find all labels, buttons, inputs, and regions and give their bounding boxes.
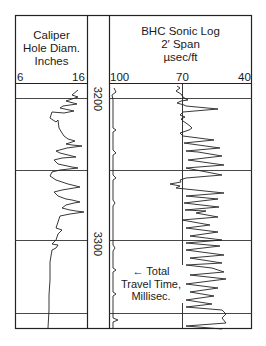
sonic-title-line-1: BHC Sonic Log: [110, 25, 251, 38]
sonic-scale-70: 70: [176, 71, 189, 83]
caliper-scale-max: 16: [72, 71, 85, 83]
sonic-title-line-3: µsec/ft: [110, 51, 251, 64]
sonic-track-title: BHC Sonic Log 2′ Span µsec/ft: [110, 25, 251, 64]
annotation-line-1: ← Total: [116, 265, 186, 278]
caliper-track-title: Caliper Hole Diam. Inches: [16, 29, 87, 68]
annotation-line-3: Millisec.: [116, 290, 186, 303]
caliper-title-line-1: Caliper: [16, 29, 87, 42]
annotation-line-2: Travel Time,: [116, 278, 186, 291]
sonic-scale-100: 100: [110, 71, 129, 83]
caliper-scale-min: 6: [17, 71, 23, 83]
depth-label-3300: 3300: [92, 230, 104, 258]
travel-time-annotation: ← Total Travel Time, Millisec.: [116, 265, 186, 303]
caliper-title-line-2: Hole Diam.: [16, 42, 87, 55]
depth-label-3200: 3200: [92, 85, 104, 113]
sonic-scale-40: 40: [238, 71, 251, 83]
sonic-title-line-2: 2′ Span: [110, 38, 251, 51]
caliper-title-line-3: Inches: [16, 55, 87, 68]
caliper-curve: [48, 90, 84, 328]
